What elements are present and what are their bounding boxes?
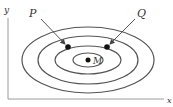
- label-M: M: [92, 56, 103, 66]
- contour-diagram: y x P Q M: [0, 0, 173, 107]
- arrow-to-P: [41, 19, 65, 44]
- point-Q: [104, 44, 110, 50]
- label-P: P: [28, 7, 37, 20]
- arrow-to-Q: [110, 19, 135, 44]
- point-M: [86, 58, 91, 63]
- label-Q: Q: [137, 7, 146, 20]
- y-axis-label: y: [3, 5, 10, 15]
- point-P: [65, 44, 71, 50]
- x-axis-label: x: [167, 96, 172, 105]
